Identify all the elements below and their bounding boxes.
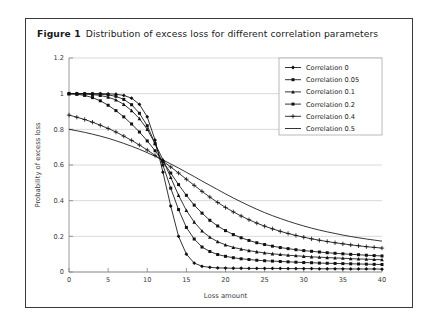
marker-square bbox=[169, 172, 172, 175]
marker-square bbox=[263, 259, 266, 262]
marker-square bbox=[381, 254, 384, 257]
marker-square bbox=[287, 260, 290, 263]
marker-square bbox=[381, 263, 384, 266]
marker-square bbox=[310, 261, 313, 264]
marker-triangle bbox=[122, 102, 126, 106]
marker-square bbox=[216, 253, 219, 256]
x-tick-label: 15 bbox=[182, 276, 190, 284]
marker-square bbox=[240, 257, 243, 260]
marker-square bbox=[193, 238, 196, 241]
marker-diamond bbox=[294, 267, 298, 271]
marker-square bbox=[138, 131, 141, 134]
marker-diamond bbox=[122, 94, 126, 98]
marker-square bbox=[318, 251, 321, 254]
marker-square bbox=[193, 204, 196, 207]
y-tick-label: 0 bbox=[60, 268, 64, 276]
marker-diamond bbox=[161, 170, 165, 174]
marker-square bbox=[357, 262, 360, 265]
marker-diamond bbox=[169, 204, 173, 208]
marker-square bbox=[185, 226, 188, 229]
marker-diamond bbox=[333, 267, 337, 271]
marker-diamond bbox=[271, 267, 275, 271]
marker-square bbox=[341, 252, 344, 255]
legend-label: Correlation 0 bbox=[306, 64, 349, 72]
marker-square bbox=[146, 124, 149, 127]
marker-square bbox=[310, 250, 313, 253]
x-tick-label: 10 bbox=[143, 276, 151, 284]
y-tick-label: 1 bbox=[60, 90, 64, 98]
x-axis-title: Loss amount bbox=[204, 292, 248, 300]
y-axis-title: Probability of excess loss bbox=[34, 122, 42, 208]
marker-diamond bbox=[325, 267, 329, 271]
marker-diamond bbox=[224, 266, 228, 270]
legend-label: Correlation 0.4 bbox=[306, 113, 355, 121]
marker-square bbox=[247, 258, 250, 261]
marker-diamond bbox=[239, 266, 243, 270]
marker-square bbox=[138, 112, 141, 115]
marker-square bbox=[365, 254, 368, 257]
y-tick-label: 0.8 bbox=[54, 126, 65, 134]
marker-diamond bbox=[200, 264, 204, 268]
marker-square bbox=[107, 104, 110, 107]
marker-square bbox=[292, 78, 295, 81]
marker-square bbox=[365, 263, 368, 266]
marker-square bbox=[255, 241, 258, 244]
x-tick-label: 30 bbox=[300, 276, 308, 284]
y-tick-label: 0.2 bbox=[54, 233, 65, 241]
marker-square bbox=[75, 93, 78, 96]
marker-square bbox=[287, 247, 290, 250]
marker-diamond bbox=[357, 267, 361, 271]
marker-square bbox=[232, 256, 235, 259]
marker-square bbox=[334, 262, 337, 265]
marker-square bbox=[326, 251, 329, 254]
x-tick-label: 25 bbox=[260, 276, 268, 284]
marker-diamond bbox=[263, 267, 267, 271]
marker-triangle bbox=[185, 208, 189, 212]
marker-square bbox=[373, 254, 376, 257]
marker-square bbox=[292, 103, 295, 106]
marker-square bbox=[99, 99, 102, 102]
marker-square bbox=[326, 262, 329, 265]
marker-square bbox=[122, 98, 125, 101]
marker-square bbox=[208, 250, 211, 253]
marker-square bbox=[302, 249, 305, 252]
y-tick-label: 0.6 bbox=[54, 161, 65, 169]
marker-diamond bbox=[216, 266, 220, 270]
marker-square bbox=[146, 139, 149, 142]
marker-triangle bbox=[177, 193, 181, 197]
marker-square bbox=[130, 122, 133, 125]
marker-square bbox=[83, 94, 86, 97]
marker-square bbox=[349, 262, 352, 265]
series-correlation-0-5 bbox=[69, 129, 382, 241]
y-tick-label: 0.4 bbox=[54, 197, 65, 205]
marker-square bbox=[318, 262, 321, 265]
x-tick-label: 5 bbox=[106, 276, 110, 284]
marker-square bbox=[334, 252, 337, 255]
marker-square bbox=[247, 239, 250, 242]
y-tick-label: 1.2 bbox=[54, 54, 65, 62]
marker-square bbox=[271, 260, 274, 263]
legend-label: Correlation 0.5 bbox=[306, 125, 355, 133]
x-tick-label: 20 bbox=[221, 276, 229, 284]
marker-square bbox=[177, 208, 180, 211]
marker-square bbox=[279, 260, 282, 263]
line-chart: 00.20.40.60.811.20510152025303540Loss am… bbox=[26, 19, 414, 309]
marker-triangle bbox=[216, 240, 220, 244]
marker-diamond bbox=[372, 267, 376, 271]
x-tick-label: 0 bbox=[67, 276, 71, 284]
marker-square bbox=[122, 115, 125, 118]
marker-square bbox=[130, 103, 133, 106]
marker-square bbox=[232, 233, 235, 236]
chart-plot-area: 00.20.40.60.811.20510152025303540Loss am… bbox=[26, 19, 414, 309]
series-path bbox=[69, 129, 382, 241]
marker-square bbox=[177, 183, 180, 186]
marker-square bbox=[349, 253, 352, 256]
marker-diamond bbox=[286, 267, 290, 271]
marker-square bbox=[185, 194, 188, 197]
legend-label: Correlation 0.2 bbox=[306, 101, 355, 109]
legend-label: Correlation 0.05 bbox=[306, 76, 359, 84]
marker-square bbox=[271, 245, 274, 248]
marker-square bbox=[255, 259, 258, 262]
marker-diamond bbox=[364, 267, 368, 271]
marker-square bbox=[208, 219, 211, 222]
